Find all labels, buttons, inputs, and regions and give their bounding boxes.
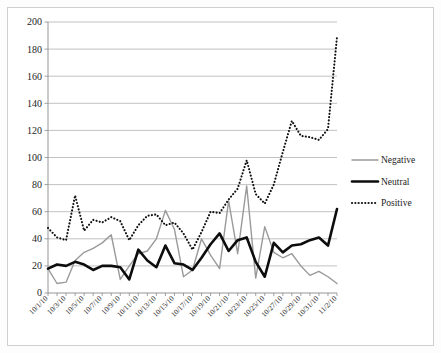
y-axis-tick-label: 60 bbox=[32, 206, 42, 217]
y-axis-tick-label: 80 bbox=[32, 179, 42, 190]
x-axis-tick-label: 10/7/10 bbox=[81, 294, 104, 317]
y-axis-tick-label: 40 bbox=[32, 233, 42, 244]
y-axis-tick-label: 200 bbox=[27, 16, 42, 27]
legend: NegativeNeutralPositive bbox=[352, 155, 415, 208]
y-axis-tick-label: 100 bbox=[27, 152, 42, 163]
x-axis-tick-label: 10/3/10 bbox=[45, 294, 68, 317]
x-axis-tick-labels: 10/1/1010/3/1010/5/1010/7/1010/9/1010/11… bbox=[27, 294, 339, 319]
y-gridlines: 020406080100120140160180200 bbox=[27, 16, 337, 298]
chart-figure: 02040608010012014016018020010/1/1010/3/1… bbox=[0, 0, 441, 353]
y-axis-tick-label: 120 bbox=[27, 125, 42, 136]
y-axis-tick-label: 160 bbox=[27, 71, 42, 82]
x-axis-tick-label: 10/5/10 bbox=[63, 294, 86, 317]
y-axis-tick-label: 140 bbox=[27, 98, 42, 109]
legend-label-positive: Positive bbox=[381, 198, 412, 208]
y-axis-tick-label: 180 bbox=[27, 44, 42, 55]
legend-label-negative: Negative bbox=[381, 155, 415, 165]
series-line-neutral bbox=[48, 209, 337, 279]
line-chart: 02040608010012014016018020010/1/1010/3/1… bbox=[0, 0, 441, 353]
x-axis-tick-label: 11/2/10 bbox=[316, 294, 338, 316]
y-axis-tick-label: 20 bbox=[32, 260, 42, 271]
series-group bbox=[48, 37, 337, 284]
legend-label-neutral: Neutral bbox=[381, 177, 410, 187]
series-line-positive bbox=[48, 37, 337, 250]
